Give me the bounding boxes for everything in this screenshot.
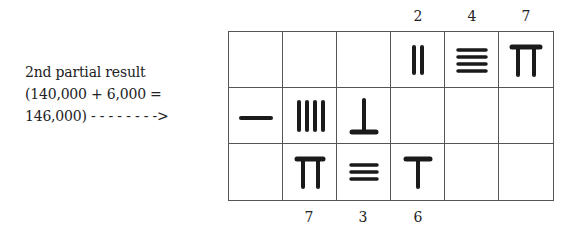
cell-r3-c3 [337, 144, 391, 200]
caption-line-2: (140,000 + 6,000 = [25, 83, 169, 105]
caption-line-1: 2nd partial result [25, 61, 169, 83]
cell-r1-c6 [499, 32, 553, 88]
cell-r2-c6 [499, 88, 553, 144]
cell-r3-c2 [283, 144, 337, 200]
cell-r1-c2 [283, 32, 337, 88]
cell-r2-c5 [445, 88, 499, 144]
cell-r3-c1 [229, 144, 283, 200]
cell-r2-c3 [337, 88, 391, 144]
rod-7-vertical-icon [506, 40, 546, 80]
caption-line-3: 146,000) - - - - - - - -> [25, 105, 169, 127]
cell-r1-c4 [391, 32, 445, 88]
cell-r1-c3 [337, 32, 391, 88]
cell-r3-c4 [391, 144, 445, 200]
counting-rod-grid [228, 31, 554, 201]
rod-4-vertical-icon [290, 96, 330, 136]
rod-4-horizontal-icon [452, 42, 492, 78]
top-label-col6: 7 [499, 8, 553, 24]
bottom-label-col4: 6 [391, 209, 445, 225]
rod-6-horizontal-icon [344, 94, 384, 138]
cell-r1-c1 [229, 32, 283, 88]
top-label-col5: 4 [445, 8, 499, 24]
top-label-col4: 2 [391, 8, 445, 24]
rod-2-vertical-icon [403, 42, 433, 78]
rod-3-horizontal-icon [344, 154, 384, 190]
bottom-label-col2: 7 [282, 209, 336, 225]
cell-r1-c5 [445, 32, 499, 88]
cell-r2-c2 [283, 88, 337, 144]
bottom-label-col3: 3 [336, 209, 390, 225]
cell-r2-c1 [229, 88, 283, 144]
rod-1-horizontal-icon [236, 98, 276, 134]
cell-r3-c6 [499, 144, 553, 200]
cell-r3-c5 [445, 144, 499, 200]
rod-6-vertical-icon [398, 151, 438, 193]
cell-r2-c4 [391, 88, 445, 144]
partial-result-caption: 2nd partial result (140,000 + 6,000 = 14… [25, 61, 169, 127]
rod-7-vertical-icon [290, 151, 330, 193]
